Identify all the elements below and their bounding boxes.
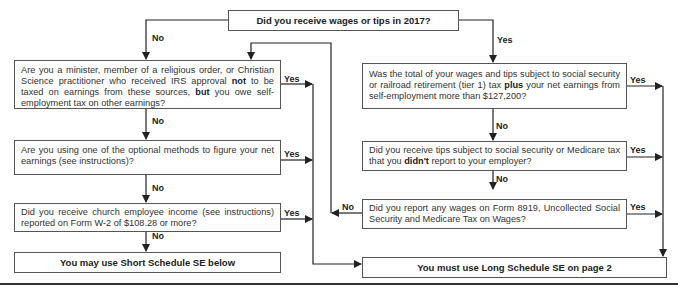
question-emphasis: didn't [404, 156, 429, 166]
question-emphasis: not [232, 76, 246, 86]
form-8919-no-label: No [342, 202, 354, 212]
question-text: Are you using one of the optional method… [21, 145, 274, 166]
minister-yes-label: Yes [284, 74, 300, 84]
unreported-tips-no-label: No [496, 174, 508, 184]
optional-methods-yes-label: Yes [284, 149, 300, 159]
form-8919-yes-label: Yes [630, 202, 646, 212]
question-text: report to your employer? [429, 156, 532, 166]
outcome-text: You must use Long Schedule SE on page 2 [417, 262, 612, 273]
start-question-box: Did you receive wages or tips in 2017? [228, 10, 459, 31]
wage-total-question-box: Was the total of your wages and tips sub… [362, 63, 627, 109]
form-8919-question-box: Did you report any wages on Form 8919, U… [362, 199, 627, 229]
short-schedule-outcome: You may use Short Schedule SE below [14, 252, 281, 273]
start-no-label: No [152, 33, 164, 43]
optional-methods-no-label: No [152, 183, 164, 193]
church-income-no-label: No [152, 231, 164, 241]
minister-no-label: No [152, 116, 164, 126]
unreported-tips-question-box: Did you receive tips subject to social s… [362, 141, 627, 171]
question-text: Did you receive church employee income (… [21, 207, 274, 228]
church-income-yes-label: Yes [284, 208, 300, 218]
question-emphasis: plus [504, 80, 523, 90]
wage-total-no-label: No [496, 121, 508, 131]
minister-question-box: Are you a minister, member of a religiou… [14, 60, 281, 109]
start-yes-label: Yes [497, 35, 513, 45]
long-schedule-outcome: You must use Long Schedule SE on page 2 [362, 257, 667, 278]
wage-total-yes-label: Yes [630, 75, 646, 85]
outcome-text: You may use Short Schedule SE below [60, 257, 235, 268]
unreported-tips-yes-label: Yes [630, 145, 646, 155]
start-question-text: Did you receive wages or tips in 2017? [256, 15, 430, 26]
optional-methods-question-box: Are you using one of the optional method… [14, 140, 281, 175]
bottom-divider [0, 283, 678, 285]
church-income-question-box: Did you receive church employee income (… [14, 203, 281, 232]
question-text: Did you report any wages on Form 8919, U… [369, 203, 620, 224]
question-emphasis: but [195, 87, 209, 97]
